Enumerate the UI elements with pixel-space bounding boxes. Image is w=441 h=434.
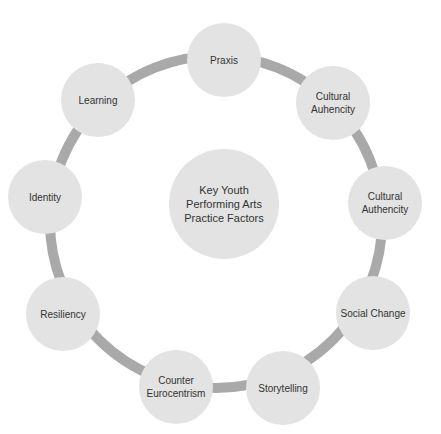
node-label: Identity [29,191,61,204]
node-cultural-authencity: Cultural Authencity [348,166,422,240]
node-resiliency: Resiliency [26,277,100,351]
node-praxis: Praxis [187,23,261,97]
node-social-change: Social Change [336,276,410,350]
node-label: Cultural Authencity [355,190,415,216]
node-label: Learning [79,94,118,107]
node-label: Praxis [210,54,238,67]
node-counter-eurocentrism: Counter Eurocentrism [139,350,213,424]
node-label: Storytelling [258,382,307,395]
node-cultural-auhencity: Cultural Auhencity [296,66,370,140]
center-node: Key Youth Performing Arts Practice Facto… [169,149,279,259]
node-learning: Learning [61,63,135,137]
node-label: Social Change [340,307,405,320]
node-label: Cultural Auhencity [304,90,362,116]
node-label: Counter Eurocentrism [143,374,209,400]
node-label: Resiliency [40,308,86,321]
node-identity: Identity [8,160,82,234]
center-label: Key Youth Performing Arts Practice Facto… [184,183,264,225]
node-storytelling: Storytelling [246,351,320,425]
